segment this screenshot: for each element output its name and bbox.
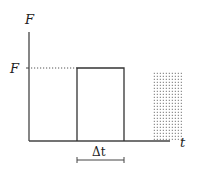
x-axis-label: t [180, 135, 186, 150]
duration-label: Δt [92, 145, 106, 159]
level-label: F [9, 61, 20, 76]
force-time-diagram: F F t Δt [0, 0, 206, 174]
dotted-region [152, 71, 183, 141]
y-axis-label: F [24, 12, 35, 27]
rectangular-pulse [77, 68, 124, 141]
